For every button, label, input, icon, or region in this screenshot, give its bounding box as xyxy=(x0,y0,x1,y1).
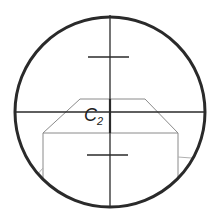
label-main: C xyxy=(84,105,98,125)
reticle-diagram: C2 xyxy=(0,0,217,222)
background xyxy=(0,0,217,222)
label-subscript: 2 xyxy=(96,115,103,127)
